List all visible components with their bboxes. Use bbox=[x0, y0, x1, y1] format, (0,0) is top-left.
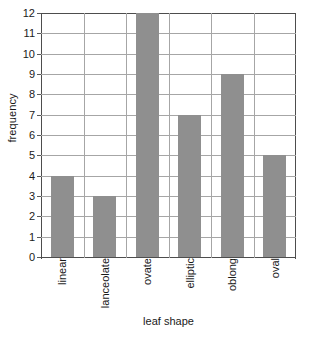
bar bbox=[136, 13, 159, 257]
x-axis-ticklabel: oval bbox=[269, 258, 281, 278]
x-axis-ticklabel-slot: lanceolate bbox=[84, 258, 127, 310]
y-axis-tickmark bbox=[37, 54, 41, 55]
bar bbox=[178, 115, 201, 257]
y-axis-ticklabel: 9 bbox=[29, 69, 35, 80]
y-axis-tickmark bbox=[37, 216, 41, 217]
x-axis-ticklabel-slot: oval bbox=[254, 258, 297, 310]
bar bbox=[221, 74, 244, 257]
y-axis-ticklabel: 7 bbox=[29, 109, 35, 120]
x-axis-ticklabel-slot: oblong bbox=[211, 258, 254, 310]
x-axis-ticklabel: linear bbox=[56, 258, 68, 285]
y-axis-ticklabel: 0 bbox=[29, 252, 35, 263]
y-axis-ticklabel: 8 bbox=[29, 89, 35, 100]
x-axis-ticklabels: linearlanceolateovateellipticoblongoval bbox=[41, 258, 296, 310]
y-axis-tickmark bbox=[37, 176, 41, 177]
bar-chart: frequency 0123456789101112 linearlanceol… bbox=[0, 0, 313, 337]
x-axis-ticklabel-slot: ovate bbox=[126, 258, 169, 310]
y-axis-ticklabel: 5 bbox=[29, 150, 35, 161]
y-axis-ticklabel: 12 bbox=[23, 8, 35, 19]
x-axis-ticklabel-slot: elliptic bbox=[169, 258, 212, 310]
bar bbox=[93, 196, 116, 257]
axis-line-right bbox=[295, 13, 296, 259]
axis-line-left bbox=[41, 13, 42, 259]
x-axis-title: leaf shape bbox=[41, 315, 296, 328]
y-axis-ticklabel: 4 bbox=[29, 170, 35, 181]
y-axis-ticklabel: 11 bbox=[24, 28, 35, 39]
y-axis-tickmark bbox=[37, 135, 41, 136]
gridline-vertical bbox=[84, 13, 85, 258]
y-axis-tickmark bbox=[37, 237, 41, 238]
x-axis-ticklabel: oblong bbox=[226, 258, 238, 291]
y-axis-tickmark bbox=[37, 33, 41, 34]
y-axis-ticklabel: 3 bbox=[29, 191, 35, 202]
bar bbox=[263, 155, 286, 257]
plot-area bbox=[41, 13, 296, 258]
x-axis-ticklabel: elliptic bbox=[184, 258, 196, 289]
y-axis-tickmark bbox=[37, 115, 41, 116]
x-axis-ticklabel-slot: linear bbox=[41, 258, 84, 310]
y-axis-ticklabels: 0123456789101112 bbox=[16, 13, 35, 258]
y-axis-tickmark bbox=[37, 94, 41, 95]
y-axis-tickmark bbox=[37, 74, 41, 75]
gridline-vertical bbox=[126, 13, 127, 258]
x-axis-ticklabel: ovate bbox=[141, 258, 153, 285]
x-axis-ticklabel: lanceolate bbox=[99, 258, 111, 308]
y-axis-tickmark bbox=[37, 196, 41, 197]
y-axis-ticklabel: 6 bbox=[29, 130, 35, 141]
y-axis-ticklabel: 10 bbox=[23, 48, 35, 59]
y-axis-ticklabel: 2 bbox=[29, 211, 35, 222]
bar bbox=[51, 176, 74, 257]
y-axis-tickmark bbox=[37, 13, 41, 14]
gridline-vertical bbox=[211, 13, 212, 258]
y-axis-tickmark bbox=[37, 257, 41, 258]
y-axis-ticklabel: 1 bbox=[29, 231, 35, 242]
gridline-vertical bbox=[169, 13, 170, 258]
gridline-vertical bbox=[254, 13, 255, 258]
y-axis-tickmark bbox=[37, 155, 41, 156]
